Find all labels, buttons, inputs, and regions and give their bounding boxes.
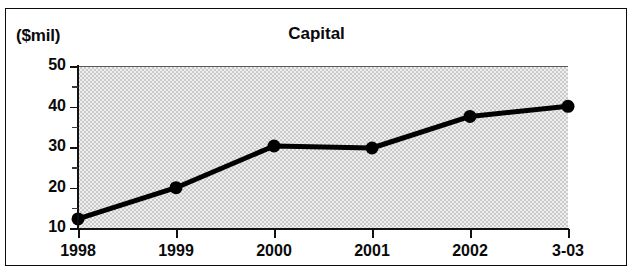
y-tick-label-20: 20 [24, 178, 66, 196]
x-tick-label-1998: 1998 [33, 242, 123, 260]
x-tick-1998 [78, 229, 80, 238]
capital-line-chart: ($mil) Capital 1020304050 19981999200020… [0, 0, 633, 276]
plot-area [78, 66, 568, 229]
data-series-svg [78, 67, 568, 229]
x-tick-label-1999: 1999 [131, 242, 221, 260]
x-tick-label-2002: 2002 [425, 242, 515, 260]
data-point-3-03 [562, 100, 575, 113]
x-tick-2000 [274, 229, 276, 238]
x-tick-3-03 [568, 229, 570, 238]
x-tick-label-2000: 2000 [229, 242, 319, 260]
y-tick-50 [70, 66, 79, 68]
x-tick-label-3-03: 3-03 [523, 242, 613, 260]
data-point-2000 [268, 139, 281, 152]
x-axis-line [77, 228, 569, 230]
y-tick-label-40: 40 [24, 97, 66, 115]
x-tick-1999 [176, 229, 178, 238]
y-tick-label-30: 30 [24, 137, 66, 155]
data-point-2001 [366, 142, 379, 155]
y-tick-30 [70, 147, 79, 149]
y-tick-label-10: 10 [24, 218, 66, 236]
data-point-1999 [170, 181, 183, 194]
x-tick-label-2001: 2001 [327, 242, 417, 260]
y-tick-label-50: 50 [24, 56, 66, 74]
x-tick-2002 [470, 229, 472, 238]
chart-title: Capital [0, 24, 633, 44]
series-markers-group [72, 100, 575, 226]
y-minor-tick-45 [72, 86, 78, 87]
x-tick-2001 [372, 229, 374, 238]
y-minor-tick-15 [72, 208, 78, 209]
series-line-capital [78, 106, 568, 219]
data-point-2002 [464, 110, 477, 123]
y-minor-tick-25 [72, 167, 78, 168]
y-tick-40 [70, 107, 79, 109]
y-minor-tick-35 [72, 127, 78, 128]
y-tick-20 [70, 188, 79, 190]
